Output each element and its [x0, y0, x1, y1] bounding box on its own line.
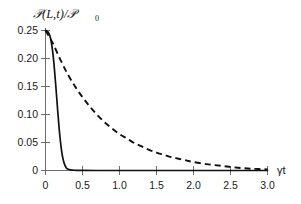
y-tick-label: 0.20 — [18, 52, 39, 64]
x-tick-label: 3.0 — [260, 179, 275, 191]
y-tick-label: 0.15 — [18, 80, 39, 92]
chart-plot-area: 𝒫(L,t)/𝒫 0 0 0.05 0.10 0.15 0.20 0.25 — [0, 0, 301, 204]
x-axis-title: γt — [277, 164, 286, 176]
y-axis-title: 𝒫(L,t)/𝒫 — [33, 7, 80, 21]
y-axis-tick-labels: 0 0.05 0.10 0.15 0.20 0.25 — [18, 24, 39, 176]
x-axis-tick-labels: 0 0.5 1.0 1.5 2.0 2.5 3.0 — [43, 179, 275, 191]
y-tick-label: 0 — [32, 164, 38, 176]
series-dashed-curve — [46, 31, 268, 170]
x-tick-label: 2.0 — [186, 179, 201, 191]
x-tick-label: 2.5 — [223, 179, 238, 191]
y-tick-label: 0.25 — [18, 24, 39, 36]
y-axis-title-subscript: 0 — [95, 14, 99, 23]
x-tick-label: 0.5 — [75, 179, 90, 191]
y-tick-label: 0.05 — [18, 136, 39, 148]
series-solid-curve — [46, 31, 268, 171]
y-tick-label: 0.10 — [18, 108, 39, 120]
x-tick-label: 0 — [43, 179, 49, 191]
chart-figure: 𝒫(L,t)/𝒫 0 0 0.05 0.10 0.15 0.20 0.25 — [0, 0, 301, 204]
x-tick-label: 1.5 — [149, 179, 164, 191]
x-tick-label: 1.0 — [112, 179, 127, 191]
